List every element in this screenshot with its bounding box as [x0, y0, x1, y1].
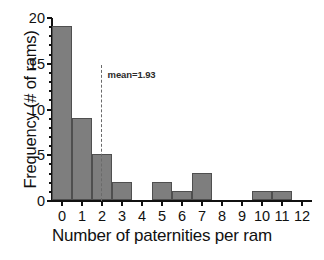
bar	[192, 173, 212, 200]
bar	[92, 154, 112, 200]
x-tick	[261, 201, 263, 206]
x-tick	[181, 201, 183, 206]
bar	[172, 191, 192, 200]
x-tick-label: 0	[58, 208, 66, 224]
x-tick	[281, 201, 283, 206]
x-tick	[101, 201, 103, 206]
histogram-chart: Frequency (# of rams) 05101520 012345678…	[0, 0, 324, 260]
x-tick	[241, 201, 243, 206]
bar	[272, 191, 292, 200]
plot-area: 05101520 0123456789101112 mean=1.93	[52, 18, 312, 201]
y-tick-label: 5	[37, 147, 45, 163]
x-tick-label: 3	[118, 208, 126, 224]
y-tick	[47, 17, 52, 19]
mean-reference-line	[101, 65, 102, 201]
bar	[252, 191, 272, 200]
x-tick-label: 12	[294, 208, 310, 224]
x-tick-label: 5	[158, 208, 166, 224]
x-tick-label: 6	[178, 208, 186, 224]
x-axis-title: Number of paternities per ram	[0, 226, 324, 246]
x-tick	[141, 201, 143, 206]
x-tick-label: 2	[98, 208, 106, 224]
x-tick	[221, 201, 223, 206]
x-tick-label: 7	[198, 208, 206, 224]
x-tick-label: 10	[254, 208, 270, 224]
bar	[52, 26, 72, 200]
y-tick-label: 10	[29, 102, 45, 118]
x-tick-label: 9	[238, 208, 246, 224]
bar	[72, 118, 92, 200]
y-tick-label: 0	[37, 193, 45, 209]
x-tick	[121, 201, 123, 206]
x-tick	[61, 201, 63, 206]
x-tick-label: 1	[78, 208, 86, 224]
x-tick-label: 8	[218, 208, 226, 224]
mean-annotation-label: mean=1.93	[108, 69, 156, 80]
y-tick-label: 15	[29, 56, 45, 72]
x-tick	[201, 201, 203, 206]
x-tick-label: 4	[138, 208, 146, 224]
x-tick-label: 11	[274, 208, 289, 224]
bar	[112, 182, 132, 200]
bar	[152, 182, 172, 200]
x-tick	[161, 201, 163, 206]
y-tick	[47, 200, 52, 202]
x-tick	[81, 201, 83, 206]
y-tick-label: 20	[29, 10, 45, 26]
x-tick	[301, 201, 303, 206]
